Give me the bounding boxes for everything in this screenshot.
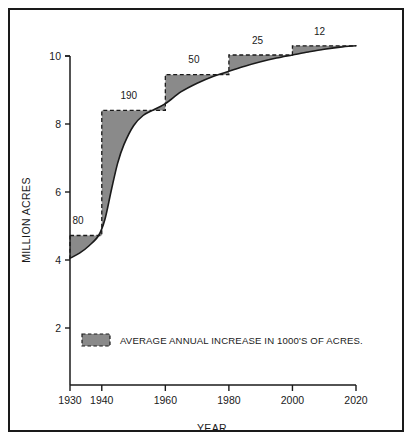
step-rate-label: 50 (188, 54, 200, 65)
shaded-increase-area (70, 46, 356, 258)
step-rate-label: 80 (72, 215, 84, 226)
x-tick-label: 1940 (90, 394, 114, 406)
x-tick-label: 2020 (344, 394, 368, 406)
y-axis-title: MILLION ACRES (20, 177, 32, 263)
chart-legend: AVERAGE ANNUAL INCREASE IN 1000'S OF ACR… (82, 334, 363, 346)
y-tick-label: 4 (55, 254, 61, 266)
x-axis-title: YEAR (197, 422, 227, 434)
y-tick-label: 2 (55, 322, 61, 334)
step-rate-label: 25 (252, 35, 264, 46)
y-tick-label: 8 (55, 118, 61, 130)
x-axis: 193019401960198020002020 (58, 385, 368, 406)
y-axis: 246810 (49, 50, 70, 385)
legend-label: AVERAGE ANNUAL INCREASE IN 1000'S OF ACR… (120, 335, 363, 346)
chart-canvas: 246810 193019401960198020002020 80190502… (0, 0, 414, 443)
x-tick-label: 1980 (217, 394, 241, 406)
chart-figure: 246810 193019401960198020002020 80190502… (0, 0, 414, 443)
y-tick-label: 10 (49, 50, 61, 62)
step-rate-label: 190 (120, 90, 137, 101)
x-tick-label: 1960 (154, 394, 178, 406)
y-tick-label: 6 (55, 186, 61, 198)
legend-swatch (82, 334, 110, 346)
step-rate-label: 12 (314, 26, 326, 37)
x-tick-label: 2000 (281, 394, 305, 406)
x-tick-label: 1930 (58, 394, 82, 406)
